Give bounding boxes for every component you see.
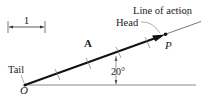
vector-diagram: 1 P O A Line of action Head Tail 20°	[0, 0, 210, 112]
origin-label: O	[20, 84, 28, 96]
vector-a-arrowhead	[152, 35, 165, 42]
point-p-dot	[164, 33, 168, 37]
point-p-label: P	[164, 39, 172, 51]
head-label: Head	[116, 17, 139, 28]
head-leader	[141, 22, 160, 33]
vector-tick-marks	[55, 37, 150, 80]
tail-leader	[21, 75, 24, 83]
scale-bar: 1	[8, 14, 45, 33]
vector-a-label: A	[84, 37, 92, 49]
line-of-action-label: Line of action	[133, 5, 193, 16]
angle-arrow-top	[115, 57, 118, 62]
angle-label: 20°	[111, 66, 125, 77]
line-of-action	[166, 22, 201, 35]
scale-label: 1	[24, 14, 30, 26]
scale-bar-left-arrow	[9, 26, 13, 29]
tail-label: Tail	[8, 64, 24, 75]
angle-arrow-bottom	[115, 80, 118, 85]
scale-bar-right-arrow	[40, 26, 44, 29]
